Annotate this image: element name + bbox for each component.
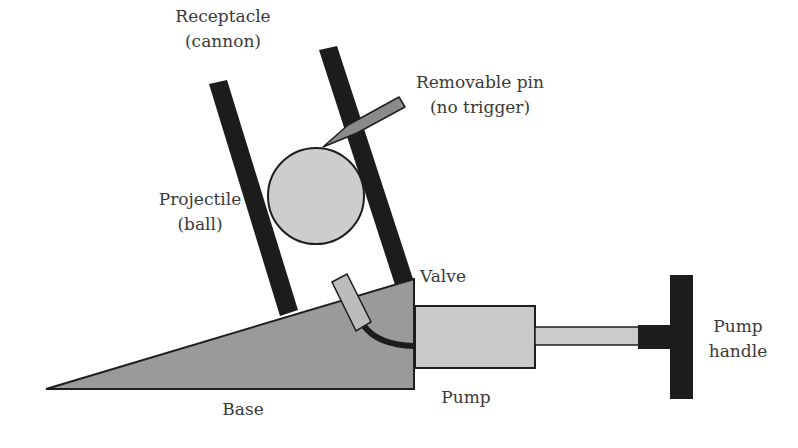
pump-rod: [535, 327, 639, 345]
ball-cannon-diagram: [0, 0, 798, 448]
pump-handle-bar: [670, 275, 693, 399]
label-removable-pin: Removable pin (no trigger): [405, 70, 555, 120]
label-projectile: Projectile (ball): [145, 187, 255, 237]
label-valve: Valve: [420, 264, 480, 289]
label-pump-handle: Pump handle: [698, 314, 778, 364]
projectile-ball: [268, 148, 364, 244]
pump-handle-stem: [638, 325, 672, 349]
label-base: Base: [213, 397, 273, 422]
label-receptacle: Receptacle (cannon): [163, 4, 283, 54]
label-pump: Pump: [436, 385, 496, 410]
pump-body: [415, 306, 535, 368]
base-wedge: [46, 279, 414, 389]
